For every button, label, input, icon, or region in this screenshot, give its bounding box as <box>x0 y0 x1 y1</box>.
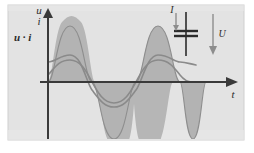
y-axis-label-power: u · i <box>14 31 32 43</box>
y-axis-label-i: i <box>37 15 40 27</box>
panel-shade-top <box>8 5 244 11</box>
current-label-I: I <box>169 4 174 15</box>
figure-root: u i u · i t I U <box>0 0 254 153</box>
voltage-label-U: U <box>218 28 226 39</box>
power-waveform-diagram: u i u · i t I U <box>0 0 254 153</box>
